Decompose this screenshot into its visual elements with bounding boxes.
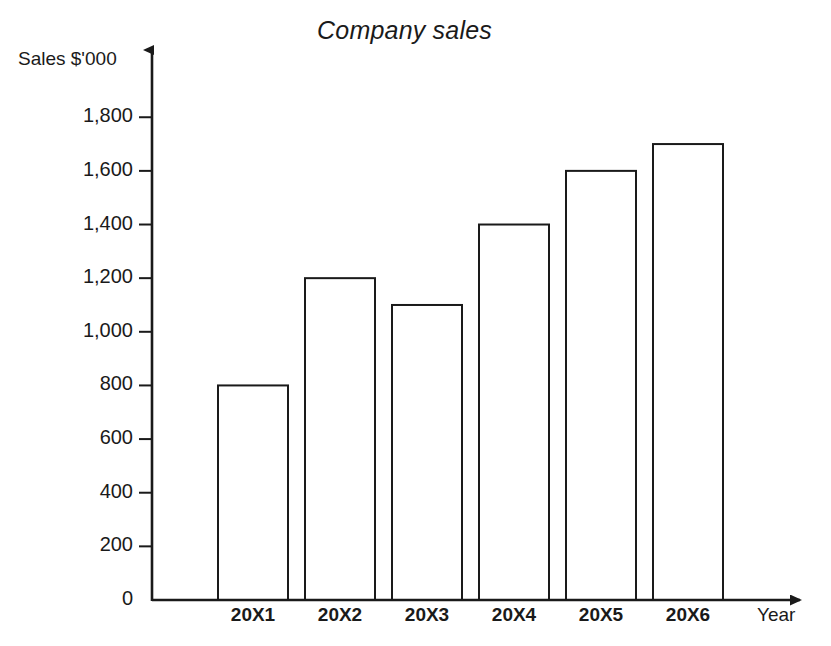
y-tick-marks: [139, 117, 152, 546]
y-tick-label: 1,400: [41, 212, 133, 235]
bar-20X2: [305, 278, 375, 600]
y-tick-label: 1,200: [41, 265, 133, 288]
y-tick-label: 800: [41, 372, 133, 395]
x-tick-label-20X1: 20X1: [210, 604, 296, 626]
x-tick-label-20X6: 20X6: [645, 604, 731, 626]
y-tick-label: 1,600: [41, 158, 133, 181]
bar-20X4: [479, 225, 549, 600]
x-tick-label-20X5: 20X5: [558, 604, 644, 626]
y-tick-label: 400: [41, 480, 133, 503]
y-tick-label: 1,000: [41, 319, 133, 342]
bar-chart: Company sales Sales $'000 Year 020040060…: [0, 0, 831, 646]
bars-group: [218, 144, 723, 600]
bar-20X5: [566, 171, 636, 600]
y-tick-label: 0: [41, 587, 133, 610]
x-tick-label-20X4: 20X4: [471, 604, 557, 626]
x-tick-label-20X2: 20X2: [297, 604, 383, 626]
bar-20X6: [653, 144, 723, 600]
x-tick-label-20X3: 20X3: [384, 604, 470, 626]
y-tick-label: 600: [41, 426, 133, 449]
y-tick-label: 200: [41, 533, 133, 556]
y-tick-label: 1,800: [41, 104, 133, 127]
bar-20X3: [392, 305, 462, 600]
bar-20X1: [218, 385, 288, 600]
